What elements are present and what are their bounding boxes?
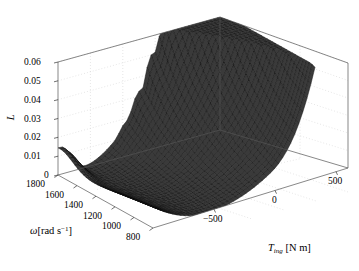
x-tick-label-500: 500 — [328, 177, 342, 187]
z-tick-label-0.03: 0.03 — [24, 115, 41, 125]
y-tick-label-1400: 1400 — [64, 201, 83, 211]
x-tick-label-0: 0 — [272, 196, 277, 206]
z-tick-label-0.01: 0.01 — [24, 152, 41, 162]
y-tick-label-1000: 1000 — [102, 222, 121, 232]
z-axis-title: L — [6, 114, 17, 120]
z-axis-ticks — [54, 62, 58, 176]
x-axis-title: Ting [N m] — [268, 243, 311, 255]
z-tick-label-0.04: 0.04 — [24, 96, 41, 106]
y-axis-title: ω[rad s−1] — [30, 226, 72, 237]
z-tick-label-0.02: 0.02 — [24, 133, 41, 143]
x-axis-unit: [N m] — [285, 242, 310, 253]
x-axis-subscript: ing — [274, 247, 283, 255]
y-tick-label-1600: 1600 — [45, 191, 64, 201]
z-tick-label-0.05: 0.05 — [24, 77, 41, 87]
y-tick-label-1800: 1800 — [26, 180, 45, 190]
y-tick-label-1200: 1200 — [83, 212, 102, 222]
y-axis-unit-close: ] — [69, 225, 73, 236]
y-tick-label-800: 800 — [126, 233, 140, 243]
y-axis-exponent: −1 — [61, 225, 68, 233]
x-tick-label--500: −500 — [203, 215, 223, 225]
z-tick-label-0.06: 0.06 — [24, 58, 41, 68]
y-axis-unit-open: [rad s — [37, 225, 61, 236]
surface-plot-figure: 0.06 0.05 0.04 0.03 0.02 0.01 0 L 1800 1… — [0, 0, 359, 271]
